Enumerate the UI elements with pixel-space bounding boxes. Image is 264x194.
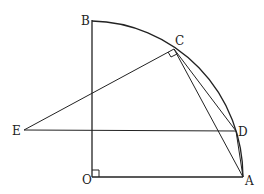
- segment-CD: [174, 49, 236, 131]
- label-E: E: [12, 124, 21, 138]
- label-B: B: [81, 14, 90, 28]
- label-C: C: [175, 34, 184, 48]
- segment-EC: [24, 49, 174, 130]
- right-angle-marker-O: [92, 170, 99, 177]
- label-O: O: [82, 173, 92, 187]
- segment-ED: [24, 130, 236, 131]
- geometry-diagram: B C D A O E: [0, 0, 264, 194]
- arc-BA: [92, 21, 243, 177]
- label-A: A: [244, 174, 254, 188]
- segment-CA: [174, 49, 243, 177]
- label-D: D: [238, 125, 248, 139]
